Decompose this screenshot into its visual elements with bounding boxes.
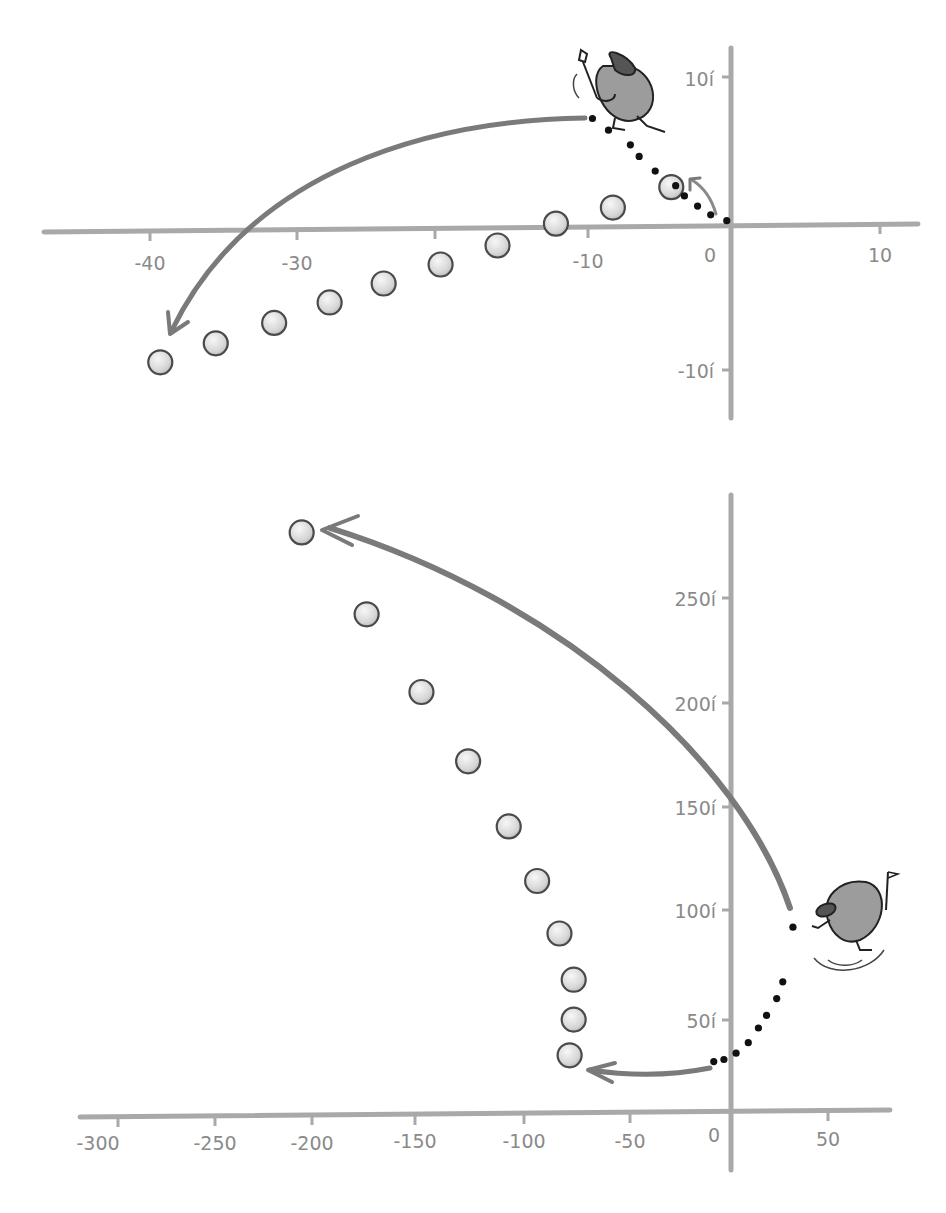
- golf-ball: [544, 212, 568, 236]
- x-tick-label: -150: [393, 1130, 436, 1152]
- trajectory-dot: [636, 153, 643, 160]
- y-tick-label: 150í: [674, 797, 716, 819]
- golf-ball: [409, 680, 433, 704]
- bottom-dotted-path: [710, 924, 796, 1066]
- trajectory-dot: [672, 182, 679, 189]
- top-balls: [148, 175, 683, 374]
- figure-canvas: -40 -30 -10 0 10 10í -10í: [0, 0, 946, 1213]
- trajectory-dot: [694, 203, 701, 210]
- golf-ball: [290, 520, 314, 544]
- bottom-balls: [290, 520, 586, 1067]
- golfer-icon: [573, 50, 665, 132]
- x-tick-label: -30: [281, 252, 312, 274]
- trajectory-dot: [605, 127, 612, 134]
- x-tick-label: -50: [614, 1130, 645, 1152]
- bottom-y-labels: 250í 200í 150í 100í 50í: [674, 588, 716, 1032]
- trajectory-dot: [755, 1024, 762, 1031]
- x-tick-label: -250: [193, 1132, 236, 1154]
- trajectory-dot: [707, 211, 714, 218]
- y-tick-label: 200í: [674, 693, 716, 715]
- y-tick-label: 50í: [687, 1010, 717, 1032]
- trajectory-dot: [589, 115, 596, 122]
- trajectory-dot: [773, 995, 780, 1002]
- x-tick-label: -300: [76, 1132, 119, 1154]
- trajectory-dot: [779, 978, 786, 985]
- trajectory-arrow: [172, 118, 585, 330]
- golf-ball: [372, 271, 396, 295]
- bottom-x-labels: -300 -250 -200 -150 -100 -50 0 50: [76, 1124, 840, 1154]
- golfer-icon: [812, 872, 898, 970]
- x-tick-label: -40: [134, 252, 165, 274]
- golf-ball: [525, 869, 549, 893]
- golf-ball: [355, 602, 379, 626]
- golf-ball: [486, 234, 510, 258]
- top-chart: -40 -30 -10 0 10 10í -10í: [44, 48, 918, 418]
- x-tick-label: -200: [290, 1132, 333, 1154]
- trajectory-dot: [652, 167, 659, 174]
- golf-ball: [547, 922, 571, 946]
- golf-ball: [429, 253, 453, 277]
- trajectory-dot: [763, 1012, 770, 1019]
- golf-ball: [204, 331, 228, 355]
- golf-ball: [262, 311, 286, 335]
- bottom-chart: -300 -250 -200 -150 -100 -50 0 50 250í 2…: [76, 495, 898, 1170]
- trajectory-dot: [723, 217, 730, 224]
- trajectory-dot: [789, 924, 796, 931]
- y-tick-label: 10í: [685, 68, 715, 90]
- x-tick-label: 0: [708, 1124, 720, 1146]
- golf-ball: [659, 175, 683, 199]
- y-tick-label: 100í: [674, 900, 716, 922]
- trajectory-dot: [681, 192, 688, 199]
- golf-ball: [318, 290, 342, 314]
- trajectory-dot: [732, 1050, 739, 1057]
- bottom-x-axis: [80, 1110, 890, 1117]
- top-x-labels: -40 -30 -10 0 10: [134, 244, 892, 274]
- x-tick-label: 50: [816, 1128, 840, 1150]
- x-tick-label: -10: [572, 250, 603, 272]
- short-arrow: [590, 1068, 710, 1074]
- y-tick-label: 250í: [674, 588, 716, 610]
- y-tick-label: -10í: [678, 360, 715, 382]
- x-tick-label: 10: [868, 244, 892, 266]
- trajectory-dot: [710, 1058, 717, 1065]
- x-tick-label: -100: [502, 1130, 545, 1152]
- golf-ball: [148, 350, 172, 374]
- trajectory-arrow: [330, 528, 790, 908]
- golf-ball: [497, 814, 521, 838]
- golf-ball: [562, 1008, 586, 1032]
- bottom-ticks: [118, 598, 828, 1127]
- golf-ball: [562, 968, 586, 992]
- golf-ball: [601, 196, 625, 220]
- golf-ball: [456, 749, 480, 773]
- trajectory-dot: [745, 1039, 752, 1046]
- trajectory-dot: [720, 1056, 727, 1063]
- golf-ball: [558, 1043, 582, 1067]
- top-x-axis: [44, 224, 918, 232]
- trajectory-dot: [627, 141, 634, 148]
- x-tick-label: 0: [704, 244, 716, 266]
